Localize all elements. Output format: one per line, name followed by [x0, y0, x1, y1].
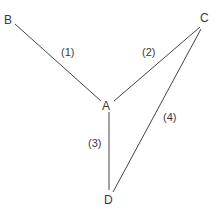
node-d-label: D: [104, 194, 113, 206]
diagram: B A C D (1) (2) (3) (4): [0, 0, 219, 215]
node-b-label: B: [4, 14, 12, 26]
edge-label-3: (3): [88, 138, 101, 149]
node-a-label: A: [102, 100, 110, 112]
edge-a-c: [114, 27, 200, 101]
edge-label-1: (1): [61, 47, 74, 58]
edge-label-2: (2): [142, 47, 155, 58]
edge-c-d: [113, 29, 201, 192]
node-c-label: C: [200, 12, 209, 24]
edge-label-4: (4): [163, 112, 176, 123]
edge-b-a: [15, 24, 101, 101]
